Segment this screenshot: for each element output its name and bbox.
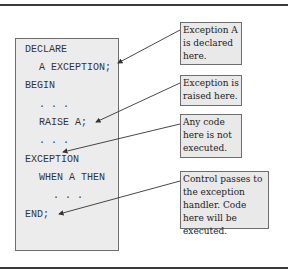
arrows: [0, 0, 288, 270]
arrow-handler: [59, 181, 180, 214]
bottom-rule: [0, 267, 288, 269]
arrow-raised: [96, 83, 180, 122]
arrow-declared: [118, 30, 180, 63]
arrow-not-executed: [63, 124, 180, 152]
